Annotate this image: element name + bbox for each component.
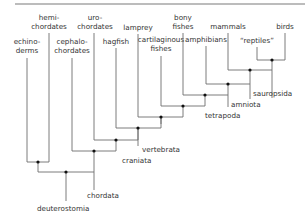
leaf-label: fishes: [173, 22, 194, 31]
node-dot: [64, 170, 67, 173]
leaf-echinoderms: echino- derms: [14, 37, 41, 55]
node-dot: [92, 149, 95, 152]
node-dot: [203, 93, 206, 96]
clade-label-vertebrata: vertebrata: [142, 145, 180, 154]
leaf-label: echino-: [14, 37, 41, 46]
leaf-label: “reptiles”: [240, 36, 274, 45]
leaf-label: amphibians: [185, 35, 227, 44]
leaf-label: chordates: [77, 22, 113, 31]
node-dot: [136, 126, 139, 129]
clade-label-chordata: chordata: [87, 191, 119, 200]
leaf-label: derms: [16, 46, 39, 55]
leaf-hagfish: hagfish: [103, 37, 129, 46]
leaf-urochordates: uro- chordates: [77, 13, 113, 31]
clade-label-sauropsida: sauropsida: [253, 89, 292, 98]
leaf-label: bony: [174, 13, 193, 22]
clade-label-amniota: amniota: [231, 100, 261, 109]
leaf-label: uro-: [88, 13, 103, 22]
cladogram-diagram: echino- derms hemi- chordates cephalo- c…: [0, 0, 306, 217]
leaf-reptiles: “reptiles”: [240, 36, 274, 45]
clade-label-tetrapoda: tetrapoda: [205, 111, 240, 120]
leaf-label: cartilaginous: [138, 35, 185, 44]
leaf-label: hagfish: [103, 37, 129, 46]
clade-label-deuterostomia: deuterostomia: [37, 204, 89, 213]
leaf-label: mammals: [210, 22, 246, 31]
leaf-label: fishes: [151, 44, 172, 53]
clade-label-craniata: craniata: [122, 156, 152, 165]
node-dot: [159, 115, 162, 118]
leaf-birds: birds: [276, 22, 294, 31]
leaf-label: chordates: [54, 46, 90, 55]
node-dot: [226, 82, 229, 85]
internal-branches: [27, 60, 285, 201]
leaf-lamprey: lamprey: [123, 23, 153, 32]
leaf-cephalochordates: cephalo- chordates: [54, 37, 90, 55]
leaf-label: birds: [276, 22, 294, 31]
leaf-label: lamprey: [123, 23, 153, 32]
leaf-mammals: mammals: [210, 22, 246, 31]
leaf-amphibians: amphibians: [185, 35, 227, 44]
leaf-label: cephalo-: [56, 37, 87, 46]
leaf-hemichordates: hemi- chordates: [31, 13, 67, 31]
node-dot: [181, 104, 184, 107]
leaf-bony-fishes: bony fishes: [173, 13, 194, 31]
leaf-cartilaginous-fishes: cartilaginous fishes: [138, 35, 185, 53]
node-dot: [114, 138, 117, 141]
node-dot: [270, 58, 273, 61]
leaf-label: hemi-: [39, 13, 60, 22]
node-dot: [36, 160, 39, 163]
leaf-label: chordates: [31, 22, 67, 31]
node-dot: [248, 68, 251, 71]
